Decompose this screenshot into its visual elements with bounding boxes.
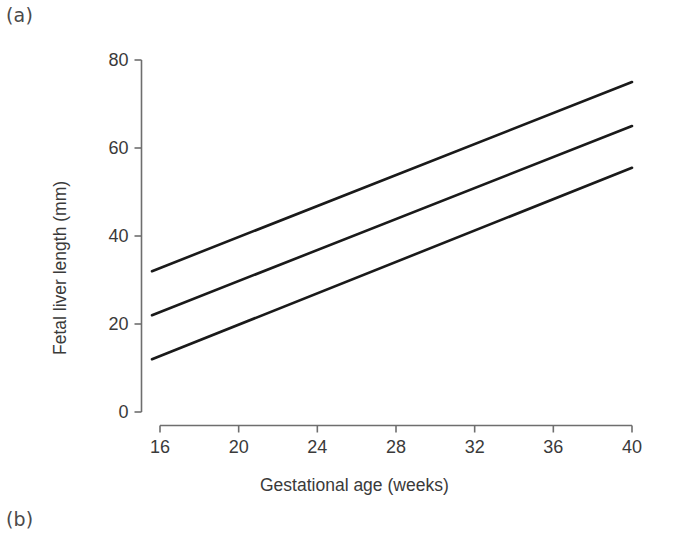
- x-tick-label: 28: [386, 437, 406, 458]
- y-tick-label: 80: [108, 50, 128, 71]
- y-tick-label: 0: [118, 402, 128, 423]
- chart-axes: [135, 60, 633, 433]
- x-tick-label: 20: [229, 437, 249, 458]
- y-tick-label: 20: [108, 314, 128, 335]
- figure-panel-a: (a) (b) Fetal liver length (mm) Gestatio…: [0, 0, 679, 538]
- x-tick-label: 16: [150, 437, 170, 458]
- y-axis-title: Fetal liver length (mm): [50, 181, 71, 355]
- x-tick-label: 36: [543, 437, 563, 458]
- chart-canvas: [0, 0, 679, 538]
- series-line-1: [152, 126, 632, 315]
- x-tick-label: 32: [465, 437, 485, 458]
- line-chart: Fetal liver length (mm) Gestational age …: [0, 0, 679, 538]
- y-tick-label: 40: [108, 226, 128, 247]
- x-axis-title: Gestational age (weeks): [260, 475, 449, 496]
- series-line-0: [152, 82, 632, 271]
- chart-series-lines: [152, 82, 632, 359]
- x-tick-label: 24: [307, 437, 327, 458]
- y-tick-label: 60: [108, 138, 128, 159]
- x-tick-label: 40: [622, 437, 642, 458]
- series-line-2: [152, 168, 632, 359]
